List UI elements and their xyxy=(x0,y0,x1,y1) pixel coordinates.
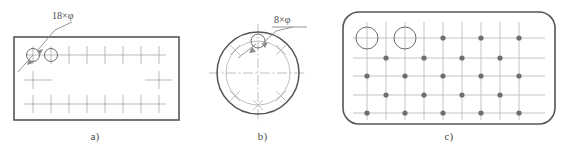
hole-dot xyxy=(516,35,521,40)
hole-dot xyxy=(459,92,464,97)
panel-caption-c: c) xyxy=(335,130,563,142)
hole-dot xyxy=(440,110,445,115)
hole-dot xyxy=(421,92,426,97)
hole-dot xyxy=(383,92,388,97)
panel-a-drawing: 18×φ xyxy=(0,0,190,132)
hole-dot xyxy=(459,55,464,60)
hole-dot xyxy=(478,73,483,78)
panel-a: 18×φ a) xyxy=(0,0,190,154)
hole-dot xyxy=(364,73,369,78)
hole-dot xyxy=(402,110,407,115)
panel-caption-a: a) xyxy=(0,130,190,142)
grid-cross-marks-a xyxy=(33,46,159,113)
hole-dot xyxy=(440,35,445,40)
dimension-label-b: 8×φ xyxy=(274,14,291,25)
hole-dot xyxy=(402,73,407,78)
panel-c-drawing xyxy=(335,0,563,132)
hole-dot xyxy=(497,92,502,97)
hole-dot xyxy=(497,55,502,60)
hole-dot xyxy=(516,110,521,115)
grid-row-lines-c xyxy=(353,38,545,113)
leader-arrowhead-secondary xyxy=(249,47,256,53)
centerlines-b xyxy=(209,24,307,122)
hole-dot xyxy=(364,110,369,115)
panel-b-drawing: 8×φ xyxy=(190,0,335,132)
hole-dot xyxy=(478,110,483,115)
hole-dot xyxy=(440,73,445,78)
leader-arrowhead-secondary xyxy=(27,59,33,65)
plate-outline-c xyxy=(343,12,555,124)
panel-c: c) xyxy=(335,0,563,154)
technical-drawing-figure: 18×φ a) xyxy=(0,0,563,154)
dimension-label-a: 18×φ xyxy=(52,10,74,21)
hole-dot xyxy=(383,55,388,60)
leader-line xyxy=(262,27,293,44)
hole-dot xyxy=(478,35,483,40)
hole-dot xyxy=(421,55,426,60)
hole-dot xyxy=(516,73,521,78)
grid-row-lines-a xyxy=(24,55,172,104)
panel-b: 8×φ b) xyxy=(190,0,335,154)
panel-caption-b: b) xyxy=(190,130,335,142)
